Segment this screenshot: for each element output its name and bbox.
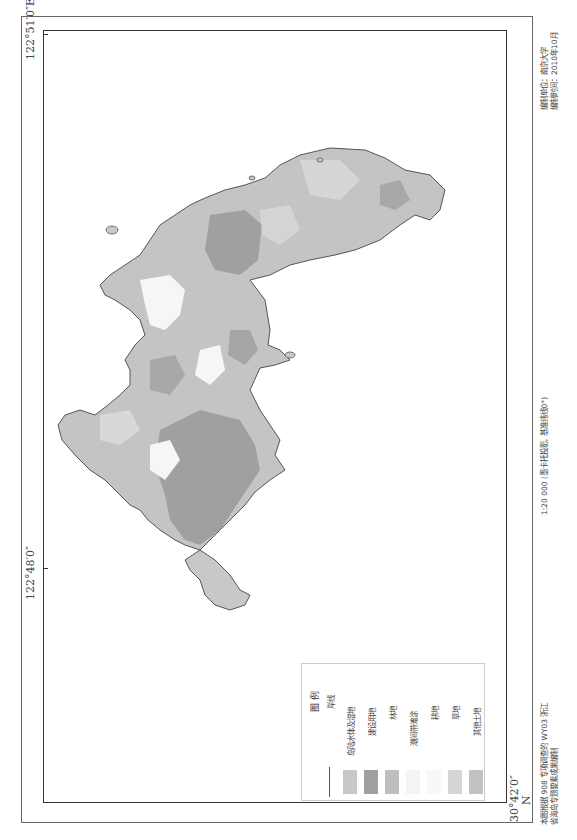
island-hook — [185, 550, 250, 610]
swatch-other-land — [469, 770, 483, 794]
swatch-intertidal — [406, 770, 420, 794]
swatch-grassland — [448, 770, 462, 794]
credits-unit: 编制单位：南京大学 — [540, 47, 550, 110]
legend-label: 岛陆水体及湿地 — [345, 707, 356, 756]
islet — [106, 226, 118, 234]
legend-label: 林地 — [387, 706, 398, 720]
coord-left-middle: 122°48′0″ — [24, 546, 37, 600]
source-note-line1: 本图根据 908 专项调查的 WY03 浙江 — [540, 703, 550, 825]
legend-label: 其他土地 — [471, 708, 482, 736]
map-legend: 图 例 岸线 岛陆水体及湿地 建设用地 林地 潮间带滩涂 耕地 草地 其他土地 — [301, 663, 485, 801]
swatch-construction — [364, 770, 378, 794]
legend-title: 图 例 — [308, 691, 321, 712]
coord-tick — [43, 34, 48, 35]
swatch-water-wetland — [343, 770, 357, 794]
islet — [249, 176, 255, 180]
islet — [285, 352, 295, 358]
legend-label: 耕地 — [429, 706, 440, 720]
coord-top-right: 122°51′0″E — [24, 0, 37, 60]
legend-label: 草地 — [450, 706, 461, 720]
scale-text: 1:20 000 (墨卡托投影, 基准纬线0°) — [540, 397, 550, 515]
legend-label: 潮间带滩涂 — [408, 711, 419, 746]
credits-date: 编制时间：2010年10月 — [550, 32, 560, 110]
source-note-line2: 省海岛专题要素成果编制 — [550, 748, 560, 825]
coastline-line-icon — [329, 767, 330, 797]
islet — [317, 158, 323, 162]
swatch-forest — [385, 770, 399, 794]
legend-label: 建设用地 — [366, 708, 377, 736]
coord-tick — [43, 568, 48, 569]
legend-label: 岸线 — [325, 695, 336, 709]
swatch-farmland — [427, 770, 441, 794]
coord-north: N — [520, 795, 533, 805]
